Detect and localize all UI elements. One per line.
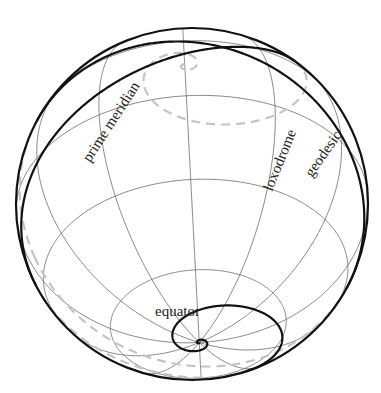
meridian-visible [199, 343, 260, 369]
meridian-visible [99, 41, 199, 342]
equator-label: equator [155, 303, 200, 319]
loxodrome-visible [21, 47, 294, 285]
labels: prime meridian loxodrome geodesic equato… [79, 78, 345, 319]
meridian-visible [183, 28, 199, 342]
sphere-diagram: prime meridian loxodrome geodesic equato… [0, 0, 381, 393]
meridian-visible [199, 343, 201, 380]
parallel-visible [51, 41, 184, 99]
geodesic-label: geodesic [301, 127, 344, 179]
loxodrome-hidden [36, 285, 247, 378]
prime-meridian-label: prime meridian [79, 78, 143, 164]
visible-curves [21, 41, 364, 371]
meridian-visible [199, 192, 368, 342]
globe-figure: prime meridian loxodrome geodesic equato… [0, 0, 381, 393]
loxodrome-hidden [144, 53, 307, 125]
loxodrome-label: loxodrome [260, 127, 299, 194]
